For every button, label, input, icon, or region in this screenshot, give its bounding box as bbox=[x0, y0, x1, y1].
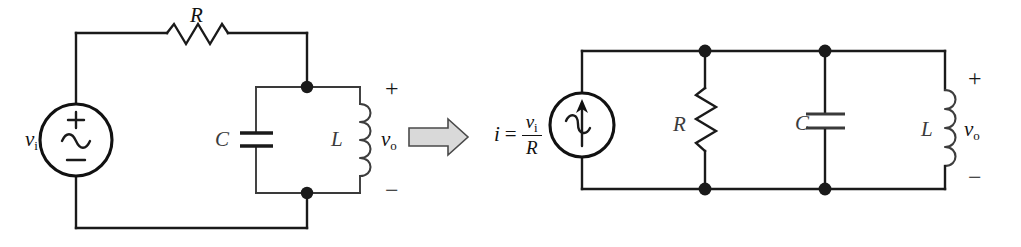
right-node-dot-r-bottom bbox=[699, 183, 712, 196]
left-capacitor-label: C bbox=[215, 129, 229, 150]
left-resistor-zigzag bbox=[167, 24, 228, 44]
right-circuit-group bbox=[550, 45, 956, 196]
right-resistor-label: R bbox=[673, 114, 686, 135]
right-inductor-coils bbox=[945, 90, 956, 166]
left-output-label: vo bbox=[381, 129, 397, 152]
equation-numerator: vi bbox=[523, 112, 541, 135]
right-node-dot-c-top bbox=[819, 45, 832, 58]
right-output-minus-sign: − bbox=[968, 165, 982, 189]
left-node-dot-bottom bbox=[301, 187, 313, 199]
right-node-dot-c-bottom bbox=[819, 183, 832, 196]
equation-fraction: vi R bbox=[522, 112, 542, 157]
right-resistor-zigzag bbox=[696, 88, 716, 151]
left-inductor-coils bbox=[360, 104, 371, 176]
right-inductor-label: L bbox=[921, 119, 933, 140]
left-output-plus-sign: + bbox=[385, 76, 399, 100]
left-circuit-group bbox=[40, 24, 371, 228]
right-output-label: vo bbox=[964, 119, 980, 142]
left-inductor-label: L bbox=[331, 129, 343, 150]
current-source-equation: i = vi R bbox=[494, 112, 542, 157]
transform-arrow-group bbox=[409, 119, 468, 155]
left-resistor-label: R bbox=[190, 5, 203, 26]
transform-arrow-shape bbox=[409, 119, 468, 155]
equation-lhs: i bbox=[494, 124, 500, 145]
right-capacitor-label: C bbox=[795, 113, 809, 134]
right-node-dot-r-top bbox=[699, 45, 712, 58]
right-output-plus-sign: + bbox=[968, 66, 982, 90]
left-node-dot-top bbox=[301, 81, 313, 93]
equation-operator: = bbox=[505, 124, 517, 145]
circuit-figure: vi R C L + vo − i = vi R R C L + vo − bbox=[0, 0, 1021, 247]
left-source-label: vi bbox=[25, 129, 38, 152]
equation-denominator: R bbox=[523, 136, 541, 157]
left-output-minus-sign: − bbox=[385, 178, 399, 202]
